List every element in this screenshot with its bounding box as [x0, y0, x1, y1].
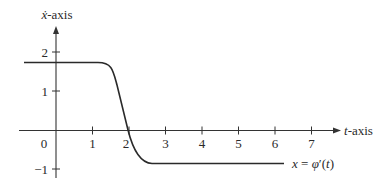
curve-label: x = φ′(t): [291, 156, 334, 171]
tick-label-1: 1: [89, 136, 96, 151]
tick-label-y-1: 1: [42, 84, 49, 99]
x-dot-axis-label: ẋ-axis: [40, 7, 72, 22]
tick-label-3: 3: [162, 136, 169, 151]
solution-curve: [24, 63, 284, 164]
x-dot-axis-arrow-icon: [53, 26, 59, 34]
tick-label-5: 5: [235, 136, 242, 151]
tick-label-y-neg1: −1: [34, 162, 48, 177]
x-dot-axis-tick-labels: 2 1 −1: [34, 45, 48, 177]
tick-label-2: 2: [123, 136, 130, 151]
t-axis-arrow-icon: [333, 128, 341, 134]
tick-label-y-2: 2: [42, 45, 49, 60]
t-axis-tick-labels: 1 2 3 4 5 6 7: [89, 136, 315, 151]
tick-label-4: 4: [199, 136, 206, 151]
chart: 1 2 3 4 5 6 7 0 2 1 −1 ẋ-axis t-axis x =…: [0, 0, 389, 188]
axes: [19, 31, 336, 178]
origin-label: 0: [41, 136, 48, 151]
tick-label-7: 7: [308, 136, 315, 151]
t-axis-label: t-axis: [344, 123, 373, 138]
tick-label-6: 6: [272, 136, 279, 151]
